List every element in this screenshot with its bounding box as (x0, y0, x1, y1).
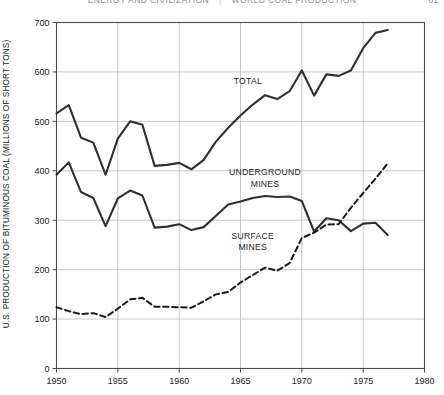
x-tick-label: 1950 (46, 376, 66, 386)
series-annotation-total: TOTAL (234, 76, 262, 86)
y-tick-label: 400 (34, 166, 49, 176)
y-tick-label: 500 (34, 117, 49, 127)
x-tick-label: 1980 (414, 376, 434, 386)
y-tick-label: 200 (34, 265, 49, 275)
series-annotation-surface-mines-line2: MINES (238, 242, 267, 252)
x-tick-label: 1970 (292, 376, 312, 386)
y-tick-label: 600 (34, 67, 49, 77)
series-annotation-underground-mines: UNDERGROUND (229, 167, 301, 177)
line-chart-figure: U.S. PRODUCTION OF BITUMINOUS COAL (MILL… (0, 0, 444, 395)
x-tick-label: 1960 (169, 376, 189, 386)
x-tick-label: 1975 (353, 376, 373, 386)
y-tick-label: 0 (44, 364, 49, 374)
y-tick-label: 300 (34, 216, 49, 226)
figure-page: ENERGY AND CIVILIZATION | WORLD COAL PRO… (0, 0, 444, 395)
series-line-total (57, 30, 388, 175)
series-line-surface-mines (57, 163, 388, 317)
y-tick-label: 100 (34, 314, 49, 324)
x-tick-label: 1965 (230, 376, 250, 386)
series-annotation-underground-mines-line2: MINES (251, 179, 280, 189)
x-tick-label: 1955 (108, 376, 128, 386)
series-annotation-surface-mines: SURFACE (231, 231, 274, 241)
y-tick-label: 700 (34, 18, 49, 28)
coal-production-line-chart: 0100200300400500600700195019551960196519… (0, 0, 444, 395)
